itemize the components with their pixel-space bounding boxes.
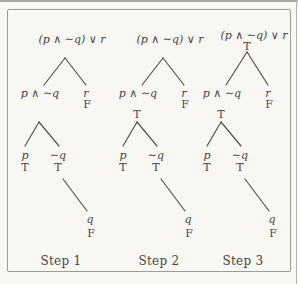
step-3-edge-root-left [226, 52, 247, 85]
step-1-edge-not-q-to-q [63, 179, 87, 211]
step-1-edge-root-left [44, 58, 65, 85]
step-1-edge-and-right [39, 122, 59, 146]
step-1-edge-and-left [25, 122, 39, 146]
step-2-edge-root-right [163, 58, 184, 85]
tree-edges-layer [0, 0, 298, 284]
step-2-edge-and-right [137, 122, 157, 146]
step-3-edge-root-right [247, 52, 268, 85]
step-2-edge-root-left [142, 58, 163, 85]
figure-canvas: (p ∧ ∼q) ∨ rp ∧ ∼qrFpT∼qTqFStep 1(p ∧ ∼q… [0, 0, 298, 284]
step-3-edge-and-left [207, 122, 221, 146]
step-3-edge-not-q-to-q [245, 179, 269, 211]
step-2-edge-not-q-to-q [161, 179, 185, 211]
step-1-edge-root-right [65, 58, 86, 85]
step-2-edge-and-left [123, 122, 137, 146]
step-3-edge-and-right [221, 122, 241, 146]
